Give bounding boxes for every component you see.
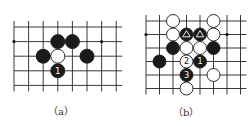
star-point-icon <box>12 40 15 43</box>
white-stone-icon <box>180 82 193 95</box>
white-stone-icon <box>180 42 193 55</box>
white-stone-icon <box>207 15 220 28</box>
move-number: 2 <box>184 56 189 66</box>
black-stone-icon <box>80 49 94 63</box>
black-stone-icon <box>207 42 220 55</box>
white-stone-icon <box>207 69 220 82</box>
star-point-icon <box>144 33 147 36</box>
white-stone-icon <box>51 49 65 63</box>
caption-b: （b） <box>173 104 199 119</box>
board-b: 213 <box>144 15 246 95</box>
caption-a: （a） <box>48 103 74 118</box>
star-point-icon <box>225 33 228 36</box>
black-stone-icon <box>51 35 65 49</box>
board-a: 1 <box>12 21 122 91</box>
white-stone-icon <box>167 15 180 28</box>
white-stone-icon <box>167 28 180 41</box>
star-point-icon <box>100 40 103 43</box>
white-stone-icon <box>194 42 207 55</box>
go-diagrams: 1213 <box>0 0 249 127</box>
black-stone-icon <box>153 55 166 68</box>
move-number: 1 <box>55 66 61 76</box>
move-number: 1 <box>197 56 202 66</box>
white-stone-icon <box>207 28 220 41</box>
black-stone-icon <box>65 35 79 49</box>
black-stone-icon <box>36 49 50 63</box>
black-stone-icon <box>167 42 180 55</box>
move-number: 3 <box>184 70 189 80</box>
